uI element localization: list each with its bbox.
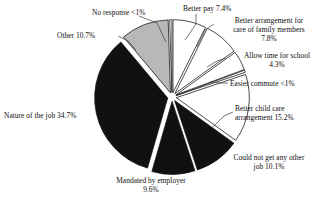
label-line: Other 10.7%: [57, 31, 95, 40]
label-line: 9.6%: [89, 185, 213, 194]
slice-label-other: Other 10.7%: [57, 31, 95, 40]
label-line: Better pay 7.4%: [183, 4, 232, 13]
label-line: Mandated by employer: [89, 176, 213, 185]
label-line: arrangement 15.2%: [235, 113, 327, 122]
slice-label-no-response: No response <1%: [92, 8, 145, 17]
label-line: Easier commute <1%: [230, 79, 295, 88]
label-line: care of family members: [216, 25, 322, 34]
label-line: Better child care: [235, 104, 327, 113]
label-line: No response <1%: [92, 8, 145, 17]
label-line: job 10.1%: [213, 162, 325, 171]
pie-chart: Better pay 7.4%Better arrangement for ca…: [0, 0, 328, 202]
slice-label-better-pay: Better pay 7.4%: [183, 4, 232, 13]
label-line: Better arrangement for: [216, 16, 322, 25]
label-line: Allow time for school: [228, 51, 326, 60]
slice-label-mandated-by-employer: Mandated by employer 9.6%: [89, 176, 213, 194]
slice-label-better-child-care-arrangement: Better child care arrangement 15.2%: [235, 104, 327, 122]
label-line: 4.3%: [228, 60, 326, 69]
label-line: 7.8%: [216, 34, 322, 43]
slice-label-nature-of-the-job: Nature of the job 34.7%: [4, 111, 76, 120]
label-line: Could not get any other: [213, 153, 325, 162]
label-line: Nature of the job 34.7%: [4, 111, 76, 120]
slice-label-could-not-get-any-other-job: Could not get any other job 10.1%: [213, 153, 325, 171]
slice-label-care-of-family-members: Better arrangement for care of family me…: [216, 16, 322, 44]
slice-label-easier-commute: Easier commute <1%: [230, 79, 295, 88]
slice-label-allow-time-for-school: Allow time for school 4.3%: [228, 51, 326, 69]
